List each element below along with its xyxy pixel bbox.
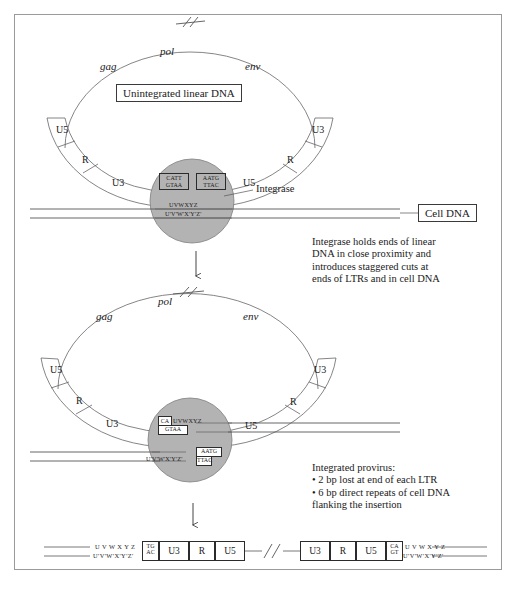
ltr-segment-left-r-top: R (82, 154, 89, 165)
strip-left-segment-u5: U5 (215, 541, 245, 561)
gene-label-pol-bottom: pol (158, 295, 172, 307)
ltr-segment-right-u5-bottom: U5 (245, 420, 257, 431)
ltr-segment-right-u3-top: U3 (312, 124, 324, 135)
bottom-break-slashes (173, 287, 204, 297)
strip-right-segment-u3: U3 (300, 541, 330, 561)
ltr-segment-left-u5-top: U5 (56, 124, 68, 135)
seq-catt: CATT (160, 175, 188, 182)
junction-left-cell-seq: UVWXYZ (173, 418, 202, 425)
gene-label-env-bottom: env (243, 310, 258, 322)
cell-dna-box-top: Cell DNA (418, 204, 477, 222)
ltr-end-sequence-left-top: CATT GTAA (159, 173, 189, 190)
top-break-slashes (176, 17, 205, 27)
junction-right-bottom-box: TTAC (196, 456, 212, 466)
integrase-label-top: Integrase (256, 183, 294, 194)
ltr-segment-left-r-bottom: R (76, 395, 83, 406)
seq-gt-right: GT (387, 549, 402, 555)
ltr-segment-left-u5-bottom: U5 (50, 364, 62, 375)
strip-left-segment-r: R (189, 541, 215, 561)
ltr-segment-right-u5-top: U5 (243, 177, 255, 188)
caption-staggered-cuts: Integrase holds ends of linear DNA in cl… (312, 236, 492, 286)
strip-left-segment-u3: U3 (159, 541, 189, 561)
ltr-segment-right-r-bottom: R (290, 396, 297, 407)
seq-ca-left: CA (161, 418, 169, 424)
strip-left-cell-bottom: U'V'W'X'Y'Z' (93, 552, 134, 559)
strip-break-slashes (264, 544, 280, 558)
seq-gtaa: GTAA (160, 182, 188, 189)
junction-right-cell-seq: U'V'W'X'Y'Z' (146, 456, 183, 463)
seq-ac: AC (143, 549, 158, 555)
strip-right-cell-top: U V W X Y Z (405, 543, 445, 550)
caption-integrated-provirus: Integrated provirus: • 2 bp lost at end … (312, 462, 498, 512)
strip-left-cell-top: U V W X Y Z (95, 543, 135, 550)
strip-right-segment-r: R (330, 541, 356, 561)
strip-left-dinuc-box: TG AC (142, 541, 159, 561)
seq-ttac: TTAC (197, 182, 225, 189)
seq-aatg-right: AATG (201, 448, 217, 454)
gene-label-gag-top: gag (100, 60, 117, 72)
gene-label-pol-top: pol (160, 45, 174, 57)
seq-gtaa-left: GTAA (165, 426, 181, 432)
cell-dna-seq-bottom-strand: U'V'W'X'Y'Z' (165, 211, 202, 218)
ltr-segment-right-r-top: R (287, 154, 294, 165)
gene-label-env-top: env (245, 60, 260, 72)
integrase-blob-bottom (148, 398, 232, 482)
junction-left-bottom-box: GTAA (158, 425, 188, 435)
strip-right-cell-bottom: U'V'W'X'Y'Z' (403, 552, 444, 559)
ltr-segment-left-u3-bottom: U3 (106, 418, 118, 429)
figure-canvas: gag pol env Unintegrated linear DNA U5 R… (0, 0, 520, 592)
strip-right-dinuc-box: CA GT (386, 541, 403, 561)
strip-right-segment-u5: U5 (356, 541, 386, 561)
seq-ttac-right: TTAC (197, 457, 212, 463)
ltr-segment-left-u3-top: U3 (112, 177, 124, 188)
cell-dna-seq-top-strand: UVWXYZ (169, 202, 198, 209)
gene-label-gag-bottom: gag (96, 310, 113, 322)
unintegrated-linear-dna-box: Unintegrated linear DNA (116, 84, 242, 102)
ltr-segment-right-u3-bottom: U3 (314, 364, 326, 375)
ltr-end-sequence-right-top: AATG TTAC (196, 173, 226, 190)
seq-aatg: AATG (197, 175, 225, 182)
